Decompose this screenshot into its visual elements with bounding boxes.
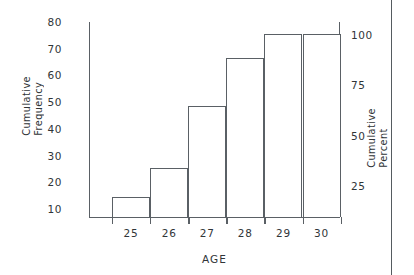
y-axis-tick-label: 80 xyxy=(36,17,62,28)
y-axis-tick-label: 70 xyxy=(36,44,62,55)
bar xyxy=(188,106,226,217)
x-axis-tick xyxy=(264,217,265,224)
y2-axis-tick-label: 100 xyxy=(351,30,383,41)
plot-area xyxy=(89,22,340,218)
cumulative-frequency-histogram-figure: Cumulative Frequency Cumulative Percent … xyxy=(0,0,414,275)
bar xyxy=(150,168,188,217)
bar xyxy=(264,34,302,217)
y-axis-tick-label: 60 xyxy=(36,70,62,81)
x-axis-tick-label: 27 xyxy=(192,228,222,239)
x-axis-tick-label: 28 xyxy=(230,228,260,239)
x-axis-tick xyxy=(150,217,151,224)
bar xyxy=(226,58,264,217)
x-axis-tick-label: 29 xyxy=(268,228,298,239)
y-axis-tick-label: 30 xyxy=(36,151,62,162)
x-axis-tick xyxy=(188,217,189,224)
y2-axis-tick-label: 50 xyxy=(351,131,383,142)
x-axis-tick xyxy=(226,217,227,224)
y-axis-title-line-1: Cumulative xyxy=(21,76,33,136)
x-axis-tick xyxy=(303,217,304,224)
y-axis-tick-label: 20 xyxy=(36,177,62,188)
y2-axis-tick-label: 75 xyxy=(351,80,383,91)
x-axis-tick xyxy=(341,217,342,224)
x-axis-tick-label: 26 xyxy=(154,228,184,239)
y-axis-tick-label: 50 xyxy=(36,97,62,108)
bar xyxy=(112,197,150,217)
x-axis-tick-label: 25 xyxy=(116,228,146,239)
y2-axis-tick-label: 25 xyxy=(351,181,383,192)
x-axis-title-age: AGE xyxy=(89,253,340,265)
x-axis-tick xyxy=(112,217,113,224)
y-axis-tick-label: 10 xyxy=(36,204,62,215)
x-axis-tick-label: 30 xyxy=(307,228,337,239)
y-axis-line xyxy=(89,22,90,218)
bar xyxy=(303,34,341,217)
y-axis-tick-label: 40 xyxy=(36,124,62,135)
